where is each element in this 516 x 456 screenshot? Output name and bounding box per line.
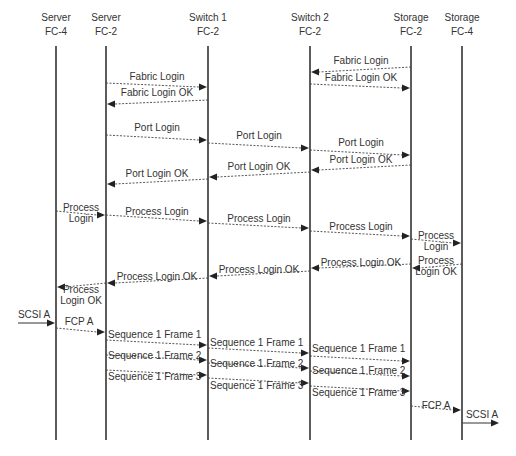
message-arrow: Sequence 1 Frame 2 (310, 365, 410, 380)
message-label: SCSI A (18, 309, 51, 320)
participant-label-line1: Switch 2 (291, 12, 329, 23)
message-arrow: Sequence 1 Frame 1 (208, 337, 309, 357)
message-label: SCSI A (466, 409, 499, 420)
message-arrow: Sequence 1 Frame 3 (310, 386, 410, 398)
arrowhead-icon (453, 407, 461, 414)
sequence-diagram: ServerFC-4ServerFC-2Switch 1FC-2Switch 2… (0, 0, 516, 456)
participant-label-line1: Switch 1 (189, 12, 227, 23)
message-arrow: ProcessLogin OK (412, 255, 462, 277)
arrow-line (56, 328, 97, 332)
message-label: Login (424, 241, 448, 252)
participant-sto4: StorageFC-4 (444, 12, 479, 440)
message-label: Process (418, 230, 454, 241)
message-label: Port Login OK (228, 161, 291, 172)
arrowhead-icon (311, 69, 319, 76)
message-label: Login OK (60, 295, 102, 306)
message-arrow: Sequence 1 Frame 3 (208, 378, 309, 391)
message-label: Sequence 1 Frame 1 (210, 337, 304, 348)
participant-label-line2: FC-2 (95, 26, 118, 37)
message-label: FCP A (422, 400, 451, 411)
message-label: Sequence 1 Frame 3 (108, 371, 202, 382)
message-arrow: ProcessLogin (56, 202, 105, 224)
arrowhead-icon (491, 420, 499, 427)
arrow-line (106, 340, 199, 345)
participant-label-line2: FC-2 (299, 26, 322, 37)
message-label: Fabric Login OK (121, 87, 194, 98)
message-arrow: Process Login OK (107, 271, 208, 287)
message-arrow: Fabric Login OK (107, 87, 208, 108)
arrowhead-icon (199, 342, 207, 349)
message-arrow: Port Login OK (107, 168, 208, 188)
message-arrow: Fabric Login OK (310, 72, 410, 92)
message-label: Process (63, 284, 99, 295)
arrowhead-icon (402, 85, 410, 92)
arrowhead-icon (402, 233, 410, 240)
message-arrow: Process Login (310, 221, 410, 240)
message-arrow: Sequence 1 Frame 1 (310, 343, 410, 365)
message-label: Port Login (338, 137, 384, 148)
message-label: Sequence 1 Frame 1 (312, 343, 406, 354)
arrow-line (310, 356, 402, 361)
arrowhead-icon (199, 84, 207, 91)
arrowhead-icon (402, 152, 410, 159)
arrowhead-icon (301, 350, 309, 357)
arrowhead-icon (97, 329, 105, 336)
message-label: Sequence 1 Frame 2 (210, 358, 304, 369)
arrowhead-icon (107, 181, 115, 188)
message-arrow: Sequence 1 Frame 3 (106, 370, 207, 382)
participant-label-line2: FC-4 (45, 26, 68, 37)
message-label: Process Login (227, 213, 290, 224)
message-label: Process (63, 202, 99, 213)
arrow-line (319, 165, 411, 170)
message-label: Login OK (415, 266, 457, 277)
arrowhead-icon (209, 174, 217, 181)
message-label: Sequence 1 Frame 3 (210, 380, 304, 391)
message-label: Port Login (134, 122, 180, 133)
arrowhead-icon (453, 240, 461, 247)
message-label: Port Login OK (126, 168, 189, 179)
message-arrow: Sequence 1 Frame 2 (208, 358, 309, 372)
message-label: Process Login OK (219, 264, 300, 275)
message-label: Process (418, 255, 454, 266)
message-arrow: FCP A (411, 400, 461, 414)
message-arrow: ProcessLogin (411, 230, 461, 252)
arrowhead-icon (199, 137, 207, 144)
arrow-line (106, 135, 199, 140)
participant-label-line1: Storage (393, 12, 428, 23)
message-arrow: Process Login OK (209, 264, 310, 280)
message-label: FCP A (65, 316, 94, 327)
participant-label-line1: Storage (444, 12, 479, 23)
arrowhead-icon (311, 265, 319, 272)
participant-label-line2: FC-2 (197, 26, 220, 37)
arrow-line (208, 143, 301, 148)
message-arrow: Sequence 1 Frame 1 (106, 329, 207, 349)
message-arrow: SCSI A (462, 409, 499, 427)
participant-label-line1: Server (91, 12, 121, 23)
arrow-line (208, 348, 301, 353)
arrowhead-icon (209, 273, 217, 280)
message-label: Fabric Login (333, 55, 388, 66)
message-arrow: Process Login OK (311, 257, 411, 272)
message-label: Sequence 1 Frame 2 (312, 365, 406, 376)
message-label: Sequence 1 Frame 3 (312, 387, 406, 398)
arrow-line (217, 172, 310, 177)
message-label: Process Login OK (321, 257, 402, 268)
message-arrow: Sequence 1 Frame 2 (106, 350, 207, 364)
message-label: Process Login OK (117, 271, 198, 282)
message-label: Sequence 1 Frame 1 (108, 329, 202, 340)
message-arrow: Port Login (106, 122, 207, 144)
message-arrow: ProcessLogin OK (57, 283, 106, 306)
arrowhead-icon (199, 218, 207, 225)
message-arrow: Process Login (106, 206, 207, 225)
arrowhead-icon (107, 280, 115, 287)
message-label: Process Login (125, 206, 188, 217)
message-label: Login (69, 213, 93, 224)
message-label: Process Login (329, 221, 392, 232)
arrowhead-icon (47, 320, 55, 327)
arrowhead-icon (301, 225, 309, 232)
arrowhead-icon (311, 167, 319, 174)
arrowhead-icon (402, 358, 410, 365)
arrowhead-icon (107, 101, 115, 108)
message-label: Port Login (236, 130, 282, 141)
arrow-line (115, 179, 208, 184)
